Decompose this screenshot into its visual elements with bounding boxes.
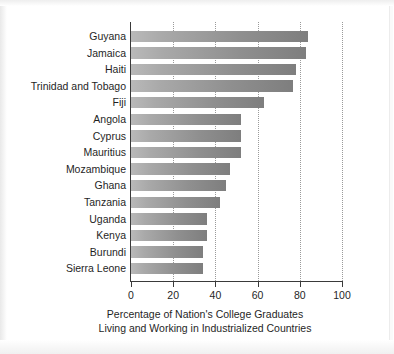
- x-tick-80: [300, 282, 301, 287]
- x-tick-label-100: 100: [333, 289, 351, 301]
- category-label-haiti: Haiti: [0, 61, 126, 78]
- category-label-fiji: Fiji: [0, 94, 126, 111]
- x-tick-100: [342, 282, 343, 287]
- category-label-mozambique: Mozambique: [0, 161, 126, 178]
- category-label-jamaica: Jamaica: [0, 45, 126, 62]
- bar-sierra-leone: [131, 263, 203, 274]
- x-tick-0: [131, 282, 132, 287]
- x-tick-label-0: 0: [128, 289, 134, 301]
- category-label-mauritius: Mauritius: [0, 144, 126, 161]
- category-label-burundi: Burundi: [0, 244, 126, 261]
- bar-burundi: [131, 246, 203, 257]
- category-label-cyprus: Cyprus: [0, 128, 126, 145]
- category-label-angola: Angola: [0, 111, 126, 128]
- category-label-ghana: Ghana: [0, 177, 126, 194]
- scanned-page-frame: GuyanaJamaicaHaitiTrinidad and TobagoFij…: [0, 0, 394, 354]
- x-axis-line: [131, 281, 343, 282]
- bar-mauritius: [131, 147, 241, 158]
- category-label-guyana: Guyana: [0, 28, 126, 45]
- category-labels-group: GuyanaJamaicaHaitiTrinidad and TobagoFij…: [0, 22, 126, 281]
- x-tick-20: [173, 282, 174, 287]
- bar-fiji: [131, 97, 264, 108]
- category-label-kenya: Kenya: [0, 227, 126, 244]
- x-tick-label-20: 20: [167, 289, 179, 301]
- bar-mozambique: [131, 163, 230, 174]
- bar-tanzania: [131, 197, 220, 208]
- category-label-trinidad-and-tobago: Trinidad and Tobago: [0, 78, 126, 95]
- bar-chart-figure: GuyanaJamaicaHaitiTrinidad and TobagoFij…: [0, 0, 394, 354]
- bar-jamaica: [131, 47, 306, 58]
- bar-haiti: [131, 64, 296, 75]
- x-tick-60: [258, 282, 259, 287]
- x-axis-caption-line-2: Living and Working in Industrialized Cou…: [60, 322, 350, 336]
- bar-guyana: [131, 31, 308, 42]
- bar-uganda: [131, 213, 207, 224]
- bar-trinidad-and-tobago: [131, 80, 293, 91]
- bar-ghana: [131, 180, 226, 191]
- x-tick-label-40: 40: [210, 289, 222, 301]
- category-label-uganda: Uganda: [0, 211, 126, 228]
- bar-cyprus: [131, 130, 241, 141]
- bars-group: [131, 22, 343, 281]
- x-tick-40: [215, 282, 216, 287]
- x-tick-label-60: 60: [252, 289, 264, 301]
- bar-angola: [131, 114, 241, 125]
- y-axis-line: [130, 22, 131, 282]
- x-tick-label-80: 80: [294, 289, 306, 301]
- category-label-tanzania: Tanzania: [0, 194, 126, 211]
- x-axis-caption-line-1: Percentage of Nation's College Graduates: [60, 308, 350, 322]
- category-label-sierra-leone: Sierra Leone: [0, 260, 126, 277]
- x-axis-caption: Percentage of Nation's College Graduates…: [60, 308, 350, 335]
- bar-kenya: [131, 230, 207, 241]
